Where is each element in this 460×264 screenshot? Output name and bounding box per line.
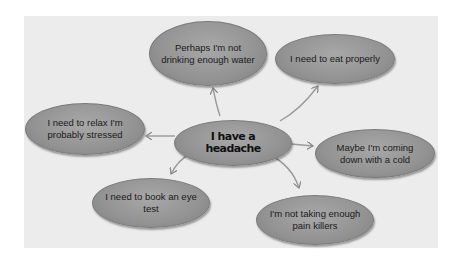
node-label: I need to eat properly [290,53,380,65]
node-book-eye-test: I need to book an eye test [92,178,210,228]
node-coming-down-cold: Maybe I'm coming down with a cold [315,129,435,178]
node-label: Perhaps I'm not drinking enough water [160,42,256,66]
node-label: I have a headache [185,131,281,155]
node-center-headache: I have a headache [174,120,292,166]
arrow-to-cold [291,144,313,146]
node-eat-properly: I need to eat properly [275,34,395,84]
node-not-drinking-water: Perhaps I'm not drinking enough water [149,21,267,86]
node-label: I'm not taking enough pain killers [267,208,363,232]
arrow-to-eat [280,86,318,121]
node-label: Maybe I'm coming down with a cold [326,142,424,166]
node-label: I need to book an eye test [103,191,199,215]
node-relax-stressed: I need to relax I'm probably stressed [25,103,145,155]
arrow-to-water [213,88,220,116]
node-label: I need to relax I'm probably stressed [36,117,134,141]
node-pain-killers: I'm not taking enough pain killers [256,195,374,245]
arrow-to-painkillers [270,155,299,188]
